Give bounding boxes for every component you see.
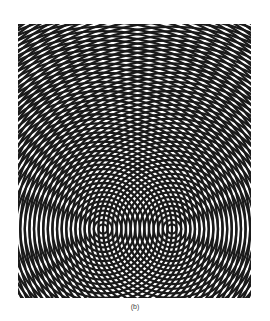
interference-pattern-svg	[18, 24, 251, 298]
figure-caption: (b)	[0, 303, 270, 310]
interference-pattern-figure	[18, 24, 251, 298]
